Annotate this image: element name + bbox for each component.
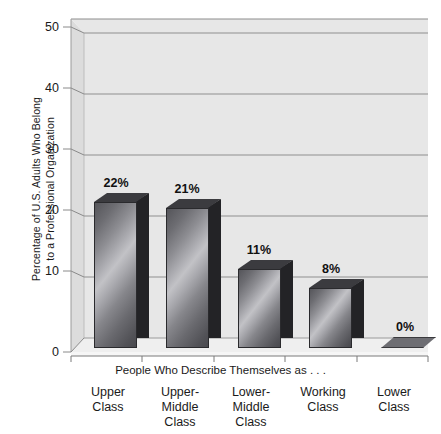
x-category-line: Class: [143, 415, 217, 430]
x-category-label-lower-class: Lower Class: [357, 385, 431, 415]
y-tick-label-40: 40: [25, 81, 59, 95]
x-category-line: Working: [286, 385, 360, 400]
bar-front-face: [238, 269, 281, 348]
bar-front-face: [309, 288, 352, 348]
bar-front-face: [166, 208, 209, 348]
bar-value-label: 0%: [375, 320, 435, 334]
plot-floor-skirt: [71, 352, 428, 356]
x-category-label-lower-middle-class: Lower- Middle Class: [214, 385, 288, 430]
x-category-label-upper-middle-class: Upper- Middle Class: [143, 385, 217, 430]
x-category-label-working-class: Working Class: [286, 385, 360, 415]
bar-value-label: 21%: [157, 182, 217, 196]
x-category-line: Upper: [71, 385, 145, 400]
y-tick-label-50: 50: [25, 20, 59, 34]
x-category-line: Lower-: [214, 385, 288, 400]
bar-front-face: [94, 202, 137, 348]
bar-value-label: 22%: [86, 176, 146, 190]
bar-chart: Percentage of U.S. Adults Who Belong to …: [0, 0, 441, 434]
x-axis-caption: People Who Describe Themselves as . . .: [0, 364, 441, 376]
bar-side-face: [351, 279, 364, 338]
y-tick-label-10: 10: [25, 264, 59, 278]
x-category-line: Class: [71, 400, 145, 415]
x-category-line: Upper-: [143, 385, 217, 400]
plot-left-wall: [71, 19, 84, 352]
x-category-line: Class: [357, 400, 431, 415]
y-tick-label-20: 20: [25, 203, 59, 217]
y-tick-label-0: 0: [25, 345, 59, 359]
bar-value-label: 11%: [229, 243, 289, 257]
y-tick-label-30: 30: [25, 142, 59, 156]
plot-top-strip: [71, 19, 428, 33]
x-category-line: Lower: [357, 385, 431, 400]
x-category-line: Middle: [214, 400, 288, 415]
bar-side-face: [280, 260, 293, 338]
x-category-line: Middle: [143, 400, 217, 415]
x-category-line: Class: [214, 415, 288, 430]
x-category-line: Class: [286, 400, 360, 415]
bar-side-face: [208, 199, 221, 338]
x-category-label-upper-class: Upper Class: [71, 385, 145, 415]
bar-value-label: 8%: [301, 262, 361, 276]
bar-side-face: [136, 193, 149, 338]
